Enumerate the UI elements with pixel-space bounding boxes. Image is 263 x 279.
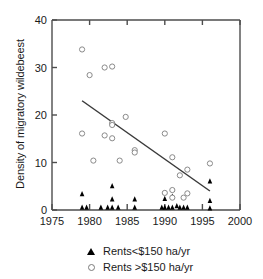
data-point-open-circle	[170, 187, 175, 192]
data-point-filled-triangle	[208, 198, 213, 203]
data-point-open-circle	[79, 131, 84, 136]
y-axis-tick-label: 40	[35, 14, 47, 26]
data-point-open-circle	[177, 173, 182, 178]
data-point-filled-triangle	[208, 205, 213, 210]
data-point-filled-triangle	[80, 191, 85, 196]
y-axis-tick-label: 30	[35, 62, 47, 74]
data-point-filled-triangle	[110, 204, 115, 209]
data-point-filled-triangle	[110, 183, 115, 188]
regression-trendline	[82, 101, 210, 191]
data-point-open-circle	[162, 190, 167, 195]
chart-legend: Rents<$150 ha/yr Rents >$150 ha/yr	[0, 243, 263, 275]
data-point-open-circle	[102, 65, 107, 70]
x-axis-tick-label: 1995	[190, 215, 214, 227]
legend-label-rents-above: Rents >$150 ha/yr	[98, 261, 193, 273]
data-point-open-circle	[185, 191, 190, 196]
x-axis-tick-label: 1980	[77, 215, 101, 227]
data-point-open-circle	[162, 131, 167, 136]
y-axis-tick-label: 20	[35, 109, 47, 121]
data-point-filled-triangle	[163, 196, 168, 201]
scatter-plot-canvas: 010203040197519801985199019952000	[0, 0, 263, 243]
legend-label-rents-below: Rents<$150 ha/yr	[98, 245, 190, 257]
data-point-open-circle	[110, 136, 115, 141]
data-point-filled-triangle	[80, 204, 85, 209]
data-point-open-circle	[102, 133, 107, 138]
data-point-filled-triangle	[170, 204, 175, 209]
data-point-open-circle	[87, 73, 92, 78]
data-point-open-circle	[91, 158, 96, 163]
data-point-filled-triangle	[166, 204, 171, 209]
data-point-open-circle	[110, 64, 115, 69]
legend-item-rents-below: Rents<$150 ha/yr	[0, 243, 263, 259]
data-point-open-circle	[123, 114, 128, 119]
data-point-filled-triangle	[84, 204, 89, 209]
data-point-open-circle	[117, 158, 122, 163]
data-point-filled-triangle	[99, 204, 104, 209]
x-axis-tick-label: 1990	[153, 215, 177, 227]
data-point-filled-triangle	[132, 204, 137, 209]
filled-triangle-icon	[84, 248, 98, 255]
open-circle-icon	[84, 264, 98, 271]
data-point-filled-triangle	[208, 178, 213, 183]
data-point-open-circle	[185, 167, 190, 172]
data-point-open-circle	[207, 161, 212, 166]
data-point-open-circle	[170, 195, 175, 200]
legend-item-rents-above: Rents >$150 ha/yr	[0, 259, 263, 275]
data-point-filled-triangle	[181, 204, 186, 209]
x-axis-tick-label: 2000	[228, 215, 252, 227]
data-point-open-circle	[170, 155, 175, 160]
data-point-filled-triangle	[105, 204, 110, 209]
data-point-filled-triangle	[110, 196, 115, 201]
data-point-filled-triangle	[116, 204, 121, 209]
data-point-open-circle	[181, 195, 186, 200]
data-point-open-circle	[79, 47, 84, 52]
data-point-open-circle	[132, 150, 137, 155]
chart-figure: Density of migratory wildebeest 01020304…	[0, 0, 263, 279]
x-axis-tick-label: 1975	[40, 215, 64, 227]
y-axis-tick-label: 10	[35, 157, 47, 169]
data-point-filled-triangle	[175, 203, 180, 208]
data-point-open-circle	[110, 122, 115, 127]
data-point-filled-triangle	[185, 204, 190, 209]
data-point-filled-triangle	[163, 204, 168, 209]
data-point-filled-triangle	[132, 196, 137, 201]
x-axis-tick-label: 1985	[115, 215, 139, 227]
